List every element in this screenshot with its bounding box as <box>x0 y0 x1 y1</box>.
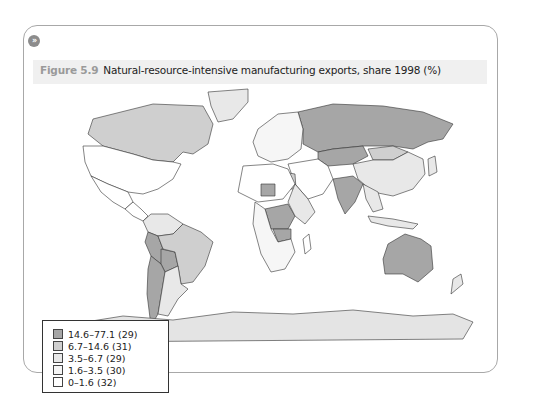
region-russia <box>298 104 453 152</box>
world-map-svg <box>33 84 487 347</box>
region-north-africa <box>238 164 295 202</box>
region-indonesia <box>368 216 418 229</box>
figure-label: Figure 5.9 <box>40 64 98 76</box>
world-map <box>33 84 487 347</box>
figure-title: Natural-resource-intensive manufacturing… <box>103 64 441 76</box>
map-legend: 14.6–77.1 (29)6.7–14.6 (31)3.5–6.7 (29)1… <box>42 320 169 393</box>
double-chevron-right-icon[interactable]: » <box>28 35 40 47</box>
legend-item: 3.5–6.7 (29) <box>53 352 168 364</box>
region-europe <box>253 112 303 162</box>
legend-swatch <box>53 365 63 375</box>
legend-item: 0–1.6 (32) <box>53 376 168 388</box>
legend-item: 1.6–3.5 (30) <box>53 364 168 376</box>
legend-label: 1.6–3.5 (30) <box>68 365 126 376</box>
region-india <box>333 176 363 214</box>
legend-swatch <box>53 377 63 387</box>
legend-label: 6.7–14.6 (31) <box>68 341 132 352</box>
legend-label: 0–1.6 (32) <box>68 377 116 388</box>
region-niger <box>261 184 275 196</box>
legend-item: 6.7–14.6 (31) <box>53 340 168 352</box>
legend-item: 14.6–77.1 (29) <box>53 328 168 340</box>
region-greenland <box>208 89 248 122</box>
legend-label: 14.6–77.1 (29) <box>68 329 138 340</box>
region-japan <box>428 156 437 176</box>
legend-swatch <box>53 329 63 339</box>
region-madagascar <box>303 234 311 254</box>
region-australia <box>383 234 433 282</box>
legend-label: 3.5–6.7 (29) <box>68 353 126 364</box>
legend-swatch <box>53 353 63 363</box>
legend-swatch <box>53 341 63 351</box>
region-new-zealand <box>451 274 463 294</box>
figure-caption: Figure 5.9Natural-resource-intensive man… <box>40 64 441 76</box>
